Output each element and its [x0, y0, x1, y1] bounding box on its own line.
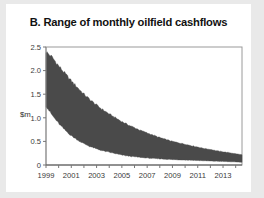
y-tick-label: 0.5: [30, 137, 41, 146]
x-tick-label: 2001: [63, 171, 80, 180]
y-axis-title: $m: [20, 110, 31, 119]
y-tick-label: 0: [37, 161, 41, 170]
figure-root: B. Range of monthly oilfield cashflows 0…: [0, 0, 264, 198]
x-tick-label: 2003: [88, 171, 105, 180]
x-tick-label: 2011: [190, 171, 206, 180]
x-tick-label: 1999: [38, 171, 55, 180]
y-tick-label: 1.5: [30, 90, 41, 99]
y-tick-label: 1.0: [30, 114, 41, 123]
x-tick-label: 2013: [215, 171, 232, 180]
oilfield-cashflow-range-chart: 00.51.01.52.02.5$m1999200120032005200720…: [6, 4, 251, 192]
x-tick-label: 2007: [139, 171, 156, 180]
chart-plot-area: 00.51.01.52.02.5$m1999200120032005200720…: [6, 4, 251, 192]
y-tick-label: 2.0: [30, 66, 41, 75]
x-tick-label: 2009: [164, 171, 181, 180]
cashflow-range-band: [46, 52, 242, 163]
figure-card: B. Range of monthly oilfield cashflows 0…: [6, 4, 251, 192]
y-tick-label: 2.5: [30, 43, 41, 52]
x-tick-label: 2005: [113, 171, 130, 180]
